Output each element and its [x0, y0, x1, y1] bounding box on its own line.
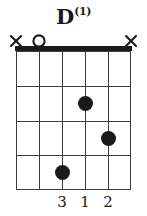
finger-dot-string5-fret3 [101, 131, 116, 146]
string-line-6 [130, 51, 131, 190]
string-line-1 [16, 51, 17, 190]
finger-dot-string3-fret4 [55, 165, 70, 180]
chord-name-title: D(1) [0, 1, 147, 29]
finger-dot-string4-fret2 [78, 96, 93, 111]
string-line-4 [85, 51, 86, 190]
string-line-5 [108, 51, 109, 190]
chord-diagram-card: D(1) 3 [0, 0, 147, 216]
finger-number-string3: 3 [52, 193, 72, 211]
chord-variant-superscript: (1) [74, 5, 91, 18]
fret-line-3 [16, 155, 131, 156]
fret-line-0 [16, 51, 131, 52]
finger-number-string4: 1 [75, 193, 95, 211]
fret-line-1 [16, 86, 131, 87]
chord-root-label: D [56, 4, 74, 29]
fretboard-grid [16, 51, 131, 190]
fret-line-4 [16, 189, 131, 190]
finger-number-string5: 2 [98, 193, 118, 211]
string-line-2 [39, 51, 40, 190]
fret-line-2 [16, 121, 131, 122]
